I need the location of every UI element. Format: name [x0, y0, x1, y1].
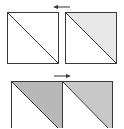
square-top-left: [8, 13, 59, 64]
square-top-right: [66, 13, 117, 64]
arrow-left-icon: [53, 5, 70, 9]
square-bottom-right: [63, 82, 113, 129]
triangle-transfer-diagram: [0, 0, 124, 128]
bottom-row: [12, 74, 113, 128]
top-row: [8, 5, 117, 64]
arrow-right-icon: [54, 74, 71, 78]
square-bottom-left: [12, 82, 63, 129]
